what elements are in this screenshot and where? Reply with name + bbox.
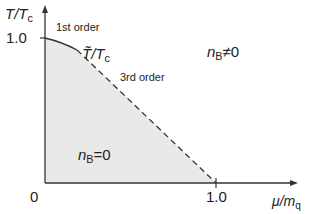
phase-diagram-graphic [0,0,312,214]
nb-zero-region [45,38,216,183]
region-label-nonzero: nB≠0 [207,44,239,61]
x-axis-arrow-icon [290,180,298,186]
first-order-label: 1st order [56,22,99,33]
third-order-label: 3rd order [120,72,165,83]
origin-label: 0 [30,189,38,204]
y-tick-label: 1.0 [6,30,27,45]
y-axis-label: T/Tc [5,6,33,23]
curve-label: T̃/Tc [82,46,110,63]
x-tick-label: 1.0 [206,189,227,204]
x-axis-label: μ/mq [272,194,301,211]
y-axis-arrow-icon [42,5,48,13]
region-label-zero: nB=0 [78,147,111,164]
